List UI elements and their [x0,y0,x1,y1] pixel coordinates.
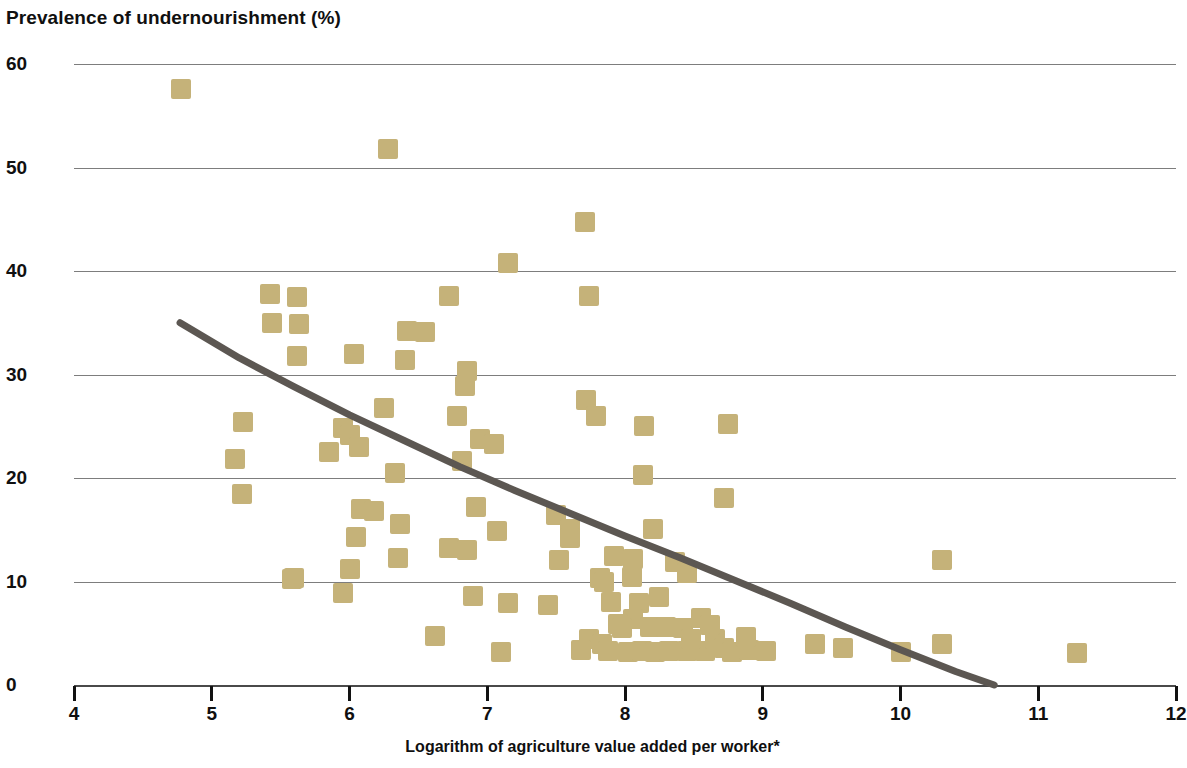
scatter-point [388,548,408,568]
scatter-point [171,79,191,99]
x-axis-tick-mark [1037,686,1040,701]
x-axis-tick-mark [210,686,213,701]
gridline-y [74,478,1176,479]
scatter-point [718,414,738,434]
y-axis-tick-label: 0 [6,674,58,696]
scatter-point [463,586,483,606]
scatter-point [439,286,459,306]
gridline-y [74,271,1176,272]
scatter-point [498,253,518,273]
scatter-point [378,139,398,159]
scatter-point [622,567,642,587]
scatter-point [677,563,697,583]
scatter-point [340,559,360,579]
scatter-point [736,627,756,647]
scatter-point [333,583,353,603]
x-axis-tick-label: 9 [757,703,768,725]
x-axis-tick-label: 10 [890,703,911,725]
scatter-point [633,465,653,485]
scatter-point [390,514,410,534]
scatter-point [623,549,643,569]
scatter-point [891,642,911,662]
y-axis-tick-label: 60 [6,53,58,75]
scatter-point [586,406,606,426]
x-axis-tick-label: 7 [482,703,493,725]
gridline-y [74,375,1176,376]
y-axis-tick-label: 50 [6,157,58,179]
x-axis-tick-label: 12 [1165,703,1186,725]
scatter-point [374,398,394,418]
scatter-point [601,592,621,612]
scatter-point [484,434,504,454]
scatter-point [643,519,663,539]
page-title: Prevalence of undernourishment (%) [6,7,341,29]
y-axis-tick-label: 40 [6,260,58,282]
x-axis-tick-mark [73,686,76,701]
scatter-point [225,449,245,469]
scatter-point [598,641,618,661]
x-axis-tick-mark [761,686,764,701]
scatter-point [571,640,591,660]
scatter-point [452,451,472,471]
scatter-point [287,287,307,307]
scatter-point [700,615,720,635]
scatter-point [346,527,366,547]
scatter-point [594,572,614,592]
scatter-point [364,501,384,521]
x-axis-tick-mark [624,686,627,701]
scatter-point [287,346,307,366]
scatter-point [681,629,701,649]
y-axis-tick-label: 10 [6,571,58,593]
x-axis-tick-label: 6 [344,703,355,725]
scatter-point [260,284,280,304]
scatter-point [395,350,415,370]
x-axis-tick-label: 4 [69,703,80,725]
scatter-point [549,550,569,570]
scatter-point [415,322,435,342]
scatter-point [385,463,405,483]
scatter-point [1067,643,1087,663]
scatter-point [232,484,252,504]
scatter-point [649,587,669,607]
scatter-point [466,497,486,517]
scatter-point [604,546,624,566]
scatter-point [457,540,477,560]
scatter-point [498,593,518,613]
scatter-point [560,528,580,548]
scatter-point [932,550,952,570]
scatter-point [932,634,952,654]
scatter-point [833,638,853,658]
gridline-y [74,64,1176,65]
x-axis-tick-mark [348,686,351,701]
scatter-point [579,286,599,306]
scatter-point [634,416,654,436]
scatter-point [284,568,304,588]
scatter-point [805,634,825,654]
scatter-point [491,642,511,662]
scatter-point [612,618,632,638]
gridline-y [74,168,1176,169]
x-axis-tick-label: 5 [206,703,217,725]
scatter-point [425,626,445,646]
y-axis-tick-label: 30 [6,364,58,386]
y-axis-tick-label: 20 [6,467,58,489]
x-axis-tick-mark [486,686,489,701]
scatter-point [756,641,776,661]
scatter-point [349,437,369,457]
scatter-point [233,412,253,432]
x-axis-tick-mark [1175,686,1178,701]
scatter-point [575,212,595,232]
scatter-point [538,595,558,615]
x-axis-label: Logarithm of agriculture value added per… [0,738,1185,756]
scatter-point [289,314,309,334]
x-axis-tick-mark [899,686,902,701]
scatter-point [487,521,507,541]
scatter-point [262,313,282,333]
plot-area [74,64,1176,685]
x-axis-tick-label: 11 [1028,703,1048,725]
scatter-point [319,442,339,462]
scatter-point [344,344,364,364]
scatter-point [447,406,467,426]
scatter-point [714,488,734,508]
